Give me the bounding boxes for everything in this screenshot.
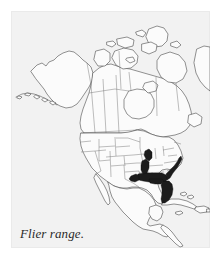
island-banks: [94, 49, 110, 66]
map-land-layer: [16, 26, 210, 247]
north-america-range-map: [11, 11, 210, 248]
figure-container: Flier range.: [0, 0, 223, 262]
figure-caption: Flier range.: [20, 226, 84, 242]
island-arctic-small-3: [171, 41, 181, 48]
island-puerto-rico: [207, 209, 210, 212]
island-melville: [117, 37, 134, 48]
island-jamaica: [176, 211, 183, 215]
region-greenland-edge: [194, 46, 210, 91]
island-bahamas-1: [181, 192, 187, 196]
aleutian-island-1: [17, 96, 22, 99]
region-yucatan: [149, 205, 163, 221]
range-gulf-coast-strip: [149, 179, 164, 184]
aleutian-island-4: [42, 98, 48, 102]
island-arctic-small-1: [107, 41, 116, 47]
region-alaska: [31, 51, 93, 108]
island-devon: [142, 42, 157, 54]
island-bahamas-2: [188, 195, 194, 199]
island-arctic-small-2: [136, 30, 146, 37]
